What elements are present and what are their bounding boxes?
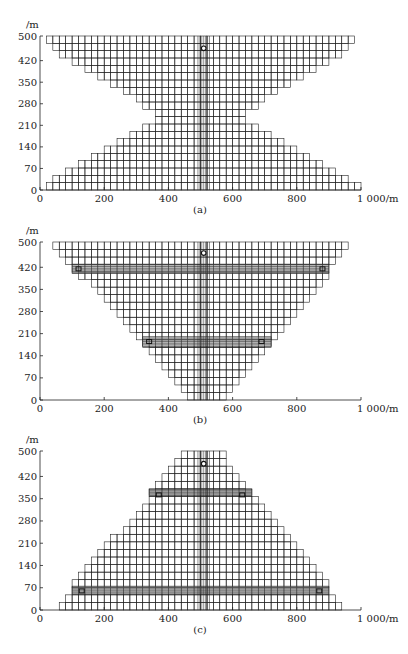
mesh-cell xyxy=(162,242,168,250)
mesh-cell xyxy=(252,542,258,550)
mesh-cell xyxy=(162,347,168,355)
mesh-cell xyxy=(310,565,316,573)
mesh-cell xyxy=(297,565,303,573)
mesh-cell xyxy=(316,602,322,610)
mesh-cell xyxy=(297,43,303,50)
mesh-cell xyxy=(194,565,200,573)
mesh-cell xyxy=(91,595,97,603)
mesh-cell xyxy=(194,73,200,80)
mesh-cell xyxy=(130,242,136,250)
mesh-cell xyxy=(162,362,168,370)
mesh-cell xyxy=(104,542,110,550)
mesh-cell xyxy=(143,310,149,318)
mesh-cell xyxy=(220,481,226,489)
mesh-cell xyxy=(168,183,174,190)
mesh-cell xyxy=(156,347,162,355)
mesh-cell xyxy=(207,362,213,370)
mesh-cell xyxy=(233,183,239,190)
mesh-cell xyxy=(181,250,187,258)
mesh-cell xyxy=(111,595,117,603)
mesh-cell xyxy=(265,317,271,325)
mesh-cell xyxy=(310,257,316,265)
mesh-cell xyxy=(194,80,200,87)
mesh-cell xyxy=(258,87,264,94)
mesh-cell xyxy=(143,512,149,520)
mesh-cell xyxy=(149,534,155,542)
mesh-cell xyxy=(207,392,213,400)
mesh-cell xyxy=(226,534,232,542)
mesh-cell xyxy=(91,242,97,250)
mesh-cell xyxy=(233,602,239,610)
mesh-cell xyxy=(59,36,65,43)
mesh-cell xyxy=(181,595,187,603)
mesh-cell xyxy=(123,161,129,168)
mesh-cell xyxy=(207,542,213,550)
mesh-cell xyxy=(168,146,174,153)
mesh-cell xyxy=(91,175,97,182)
mesh-cell xyxy=(72,168,78,175)
mesh-cell xyxy=(194,370,200,378)
mesh-cell xyxy=(233,362,239,370)
mesh-cell xyxy=(258,168,264,175)
mesh-cell xyxy=(194,168,200,175)
y-unit-label: /m xyxy=(26,225,39,236)
mesh-cell xyxy=(239,80,245,87)
mesh-cell xyxy=(271,146,277,153)
mesh-cell xyxy=(303,557,309,565)
mesh-cell xyxy=(91,280,97,288)
mesh-cell xyxy=(194,347,200,355)
mesh-cell xyxy=(335,250,341,258)
mesh-cell xyxy=(156,36,162,43)
mesh-cell xyxy=(245,242,251,250)
mesh-cell xyxy=(156,602,162,610)
mesh-cell xyxy=(233,504,239,512)
mesh-cell xyxy=(168,73,174,80)
mesh-cell xyxy=(104,280,110,288)
mesh-cell xyxy=(149,280,155,288)
mesh-cell xyxy=(123,183,129,190)
mesh-cell xyxy=(111,602,117,610)
mesh-cell xyxy=(123,139,129,146)
mesh-cell xyxy=(207,95,213,102)
mesh-cell xyxy=(72,250,78,258)
mesh-cell xyxy=(181,325,187,333)
mesh-cell xyxy=(290,302,296,310)
mesh-cell xyxy=(213,95,219,102)
mesh-cell xyxy=(188,512,194,520)
mesh-cell xyxy=(220,317,226,325)
mesh-cell xyxy=(175,161,181,168)
mesh-cell xyxy=(239,175,245,182)
mesh-cell xyxy=(46,36,52,43)
mesh-cell xyxy=(239,87,245,94)
mesh-cell xyxy=(245,595,251,603)
mesh-cell xyxy=(335,43,341,50)
mesh-cell xyxy=(297,242,303,250)
mesh-cell xyxy=(316,36,322,43)
mesh-cell xyxy=(265,572,271,580)
mesh-cell xyxy=(143,295,149,303)
mesh-cell xyxy=(194,527,200,535)
mesh-cell xyxy=(303,183,309,190)
mesh-cell xyxy=(207,242,213,250)
mesh-cell xyxy=(233,65,239,72)
mesh-cell xyxy=(175,325,181,333)
mesh-cell xyxy=(149,310,155,318)
mesh-cell xyxy=(162,183,168,190)
mesh-cell xyxy=(245,542,251,550)
mesh-cell xyxy=(162,117,168,124)
mesh-cell xyxy=(245,124,251,131)
mesh-cell xyxy=(220,287,226,295)
mesh-cell xyxy=(194,242,200,250)
mesh-cell xyxy=(168,310,174,318)
mesh-cell xyxy=(175,519,181,527)
mesh-cell xyxy=(175,139,181,146)
panel-caption: (b) xyxy=(193,414,207,425)
mesh-cell xyxy=(143,87,149,94)
mesh-cell xyxy=(149,139,155,146)
mesh-cell xyxy=(207,557,213,565)
mesh-cell xyxy=(290,542,296,550)
mesh-cell xyxy=(322,242,328,250)
mesh-cell xyxy=(168,466,174,474)
mesh-cell xyxy=(271,161,277,168)
mesh-cell xyxy=(213,385,219,393)
